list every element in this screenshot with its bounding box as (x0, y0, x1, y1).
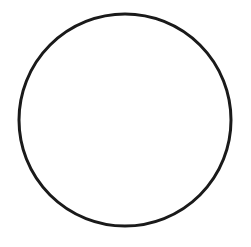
circle-outline (19, 14, 231, 226)
canvas (0, 0, 251, 247)
